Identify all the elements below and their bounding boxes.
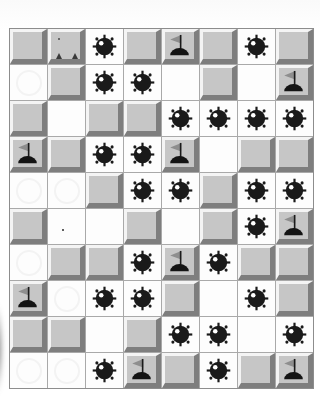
flagged-tile-r10c8[interactable]	[276, 353, 313, 388]
revealed-mine-r5c8	[276, 173, 313, 208]
mine-icon	[128, 176, 157, 205]
flag-icon	[128, 356, 155, 383]
revealed-empty-cell-r2c7	[238, 65, 275, 100]
revealed-mine-r5c4	[124, 173, 161, 208]
mine-icon	[242, 176, 271, 205]
ghost-watermark	[54, 358, 80, 384]
covered-tile-r10c7[interactable]	[238, 353, 275, 388]
ghost-watermark	[16, 70, 42, 96]
covered-tile-r8c5[interactable]	[162, 281, 199, 316]
covered-tile-r1c4[interactable]	[124, 29, 161, 64]
flag-icon	[280, 212, 307, 239]
revealed-empty-cell-with-faint-ghost-r5c2	[48, 173, 85, 208]
mine-icon	[166, 320, 195, 349]
stray-mark	[72, 53, 78, 59]
revealed-mine-r9c6	[200, 317, 237, 352]
mine-icon	[90, 140, 119, 169]
covered-tile-r7c2[interactable]	[48, 245, 85, 280]
flag-icon	[14, 140, 41, 167]
flagged-tile-r8c1[interactable]	[10, 281, 47, 316]
revealed-mine-r5c7	[238, 173, 275, 208]
mine-icon	[280, 104, 309, 133]
covered-tile-r3c3[interactable]	[86, 101, 123, 136]
revealed-empty-cell-with-faint-ghost-r10c2	[48, 353, 85, 388]
revealed-empty-cell-with-faint-ghost-r7c1	[10, 245, 47, 280]
mine-icon	[204, 104, 233, 133]
ghost-watermark	[16, 178, 42, 204]
mine-icon	[128, 284, 157, 313]
revealed-mine-r10c3	[86, 353, 123, 388]
revealed-mine-r7c6	[200, 245, 237, 280]
revealed-mine-r2c3	[86, 65, 123, 100]
mine-icon	[204, 356, 233, 385]
mine-icon	[166, 104, 195, 133]
flagged-tile-r6c8[interactable]	[276, 209, 313, 244]
covered-tile-with-stray-marks-r1c2[interactable]	[48, 29, 85, 64]
flagged-tile-r1c5[interactable]	[162, 29, 199, 64]
revealed-mine-r8c3	[86, 281, 123, 316]
flagged-tile-r4c1[interactable]	[10, 137, 47, 172]
revealed-mine-r5c5	[162, 173, 199, 208]
revealed-empty-cell-r6c3	[86, 209, 123, 244]
revealed-mine-r9c5	[162, 317, 199, 352]
covered-tile-r3c4[interactable]	[124, 101, 161, 136]
covered-tile-r1c1[interactable]	[10, 29, 47, 64]
covered-tile-r2c6[interactable]	[200, 65, 237, 100]
revealed-empty-cell-r6c5	[162, 209, 199, 244]
revealed-mine-r1c7	[238, 29, 275, 64]
covered-tile-r6c6[interactable]	[200, 209, 237, 244]
covered-tile-r8c8[interactable]	[276, 281, 313, 316]
revealed-mine-r4c4	[124, 137, 161, 172]
covered-tile-r10c5[interactable]	[162, 353, 199, 388]
flag-icon	[166, 32, 193, 59]
covered-tile-r6c4[interactable]	[124, 209, 161, 244]
ghost-watermark	[16, 250, 42, 276]
covered-tile-r7c8[interactable]	[276, 245, 313, 280]
revealed-mine-r2c4	[124, 65, 161, 100]
mine-icon	[242, 284, 271, 313]
mine-icon	[90, 356, 119, 385]
mine-icon	[280, 320, 309, 349]
covered-tile-r7c7[interactable]	[238, 245, 275, 280]
revealed-mine-r8c4	[124, 281, 161, 316]
covered-tile-r9c4[interactable]	[124, 317, 161, 352]
revealed-empty-cell-with-faint-ghost-r5c1	[10, 173, 47, 208]
covered-tile-r4c7[interactable]	[238, 137, 275, 172]
covered-tile-r6c1[interactable]	[10, 209, 47, 244]
revealed-mine-r1c3	[86, 29, 123, 64]
revealed-empty-cell-r9c7	[238, 317, 275, 352]
revealed-mine-r10c6	[200, 353, 237, 388]
covered-tile-r7c3[interactable]	[86, 245, 123, 280]
revealed-mine-r8c7	[238, 281, 275, 316]
covered-tile-r4c2[interactable]	[48, 137, 85, 172]
covered-tile-r5c3[interactable]	[86, 173, 123, 208]
mine-icon	[166, 176, 195, 205]
flagged-tile-r4c5[interactable]	[162, 137, 199, 172]
revealed-empty-cell-with-speck-r6c2	[48, 209, 85, 244]
mine-icon	[90, 284, 119, 313]
revealed-mine-r3c7	[238, 101, 275, 136]
covered-tile-r2c2[interactable]	[48, 65, 85, 100]
revealed-empty-cell-r4c6	[200, 137, 237, 172]
covered-tile-r1c6[interactable]	[200, 29, 237, 64]
flagged-tile-r2c8[interactable]	[276, 65, 313, 100]
covered-tile-r3c1[interactable]	[10, 101, 47, 136]
revealed-empty-cell-r8c6	[200, 281, 237, 316]
flag-icon	[280, 356, 307, 383]
mine-icon	[128, 248, 157, 277]
ghost-watermark	[16, 358, 42, 384]
revealed-mine-r4c3	[86, 137, 123, 172]
flagged-tile-r10c4[interactable]	[124, 353, 161, 388]
mine-icon	[242, 212, 271, 241]
mine-icon	[204, 248, 233, 277]
mine-icon	[128, 140, 157, 169]
flagged-tile-r7c5[interactable]	[162, 245, 199, 280]
mine-icon	[128, 68, 157, 97]
covered-tile-r5c6[interactable]	[200, 173, 237, 208]
mine-icon	[280, 176, 309, 205]
covered-tile-r9c2[interactable]	[48, 317, 85, 352]
revealed-empty-cell-r2c5	[162, 65, 199, 100]
covered-tile-r9c1[interactable]	[10, 317, 47, 352]
covered-tile-r4c8[interactable]	[276, 137, 313, 172]
covered-tile-r1c8[interactable]	[276, 29, 313, 64]
